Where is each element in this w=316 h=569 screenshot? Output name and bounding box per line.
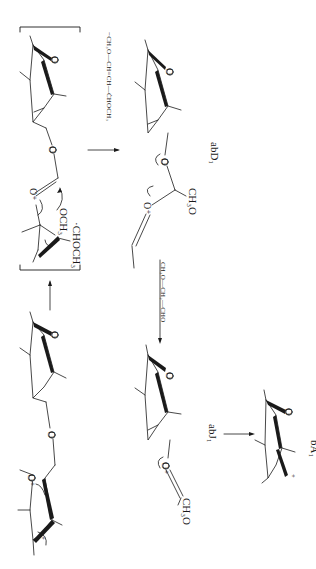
pyranose-ring-upper-left [20,36,66,128]
ring-oxygen-label: O [283,408,293,415]
start-oxonium-label: O⁺ [26,474,36,487]
ch3o-upper-label: CH₃O [187,188,198,215]
product-label-abJ1: abJ₁ [207,424,218,443]
pyranose-ring-lower-middle [135,345,181,440]
product-label-abD1: abD₁ [209,142,220,164]
bridge-oxygen-label: O [159,158,169,165]
pyranose-ring-lower-left-b [18,465,62,555]
intermediate-oxonium-label: O⁺ [28,188,38,201]
top-leaving-group-label: −CH₃O—CH=CH—ĊHOCH₃ [105,32,112,121]
abJ1-oxonium-label: O⁺ [160,462,170,475]
ring-oxygen-label: O [49,56,59,63]
charge-plus-marker: + [39,536,46,540]
intermediate-ring-fragment [22,205,55,262]
pyranose-ring-upper-middle [135,40,181,133]
product-label-bA1: bA₁ [309,440,316,457]
charge-plus-marker: + [289,474,296,478]
pyranose-ring-right [255,390,295,483]
arrow-to-abD1 [88,148,120,152]
bridge-oxygen-label: O [47,146,57,153]
ring-oxygen-label: O [49,331,59,338]
ch3o-lower-label: CH₃O [181,498,192,525]
reaction-mechanism-figure: O O O O O O O O O⁺ O⁺ O⁺ O⁺ OCH₃ ·CHOCH₃… [0,0,316,569]
ring-oxygen-label: O [164,68,174,75]
middle-leaving-group-label: CH₃O—CH₂—CHO [159,262,166,323]
pyranose-ring-lower-left-a [20,312,66,402]
radical-substituent-label: ·CHOCH₃ [71,222,82,268]
arrow-to-intermediate [48,280,52,310]
arrow-to-bA1 [224,432,255,436]
abD1-oxonium-label: O⁺ [142,202,152,215]
ring-oxygen-label: O [164,372,174,379]
bridge-oxygen-label: O [46,431,56,438]
methoxy-substituent-label: OCH₃ [58,208,69,235]
reaction-scheme-graphics [0,0,316,569]
